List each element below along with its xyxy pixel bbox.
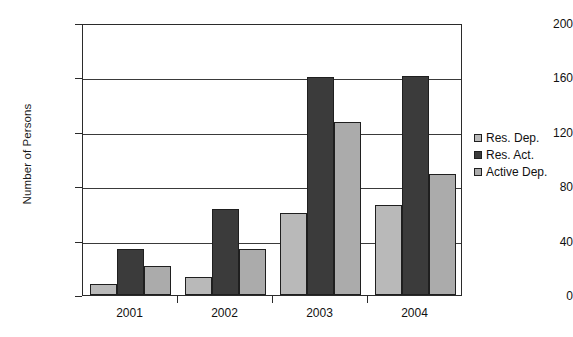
bar[interactable] — [402, 76, 429, 295]
x-tick-label-2003: 2003 — [280, 306, 360, 320]
legend-item[interactable]: Res. Dep. — [474, 130, 547, 146]
y-tick-label: 200 — [503, 17, 573, 31]
bar[interactable] — [429, 174, 456, 295]
legend-swatch-icon — [474, 151, 482, 159]
x-tick-mark — [367, 296, 368, 303]
legend: Res. Dep.Res. Act.Active Dep. — [474, 130, 547, 181]
bar[interactable] — [90, 284, 117, 295]
y-tick-label: 80 — [503, 180, 573, 194]
bar[interactable] — [334, 122, 361, 295]
x-tick-mark — [177, 296, 178, 303]
legend-swatch-icon — [474, 168, 482, 176]
y-tick-mark — [75, 187, 82, 188]
plot-area — [82, 24, 462, 296]
x-tick-mark — [272, 296, 273, 303]
bar[interactable] — [185, 277, 212, 295]
legend-swatch-icon — [474, 134, 482, 142]
bar[interactable] — [117, 249, 144, 295]
legend-label: Active Dep. — [486, 165, 547, 179]
y-tick-label: 40 — [503, 235, 573, 249]
legend-label: Res. Act. — [486, 148, 534, 162]
bar-chart: Number of Persons 04080120160200 2001200… — [0, 0, 573, 337]
bar-group-2002 — [178, 25, 273, 295]
x-tick-label-2002: 2002 — [185, 306, 265, 320]
bar-group-2001 — [83, 25, 178, 295]
y-tick-mark — [75, 78, 82, 79]
bar[interactable] — [144, 266, 171, 295]
y-tick-label: 160 — [503, 71, 573, 85]
y-tick-mark — [75, 133, 82, 134]
y-tick-mark — [75, 242, 82, 243]
legend-item[interactable]: Res. Act. — [474, 147, 547, 163]
bar-group-2004 — [368, 25, 463, 295]
bar[interactable] — [375, 205, 402, 295]
y-tick-label: 0 — [503, 289, 573, 303]
legend-label: Res. Dep. — [486, 131, 539, 145]
x-tick-label-2004: 2004 — [375, 306, 455, 320]
bar-group-2003 — [273, 25, 368, 295]
y-axis-title: Number of Persons — [21, 74, 33, 234]
bar[interactable] — [212, 209, 239, 295]
bar[interactable] — [307, 77, 334, 295]
bar[interactable] — [280, 213, 307, 295]
bar[interactable] — [239, 249, 266, 295]
x-tick-label-2001: 2001 — [90, 306, 170, 320]
legend-item[interactable]: Active Dep. — [474, 164, 547, 180]
y-tick-mark — [75, 24, 82, 25]
y-tick-mark — [75, 296, 82, 297]
